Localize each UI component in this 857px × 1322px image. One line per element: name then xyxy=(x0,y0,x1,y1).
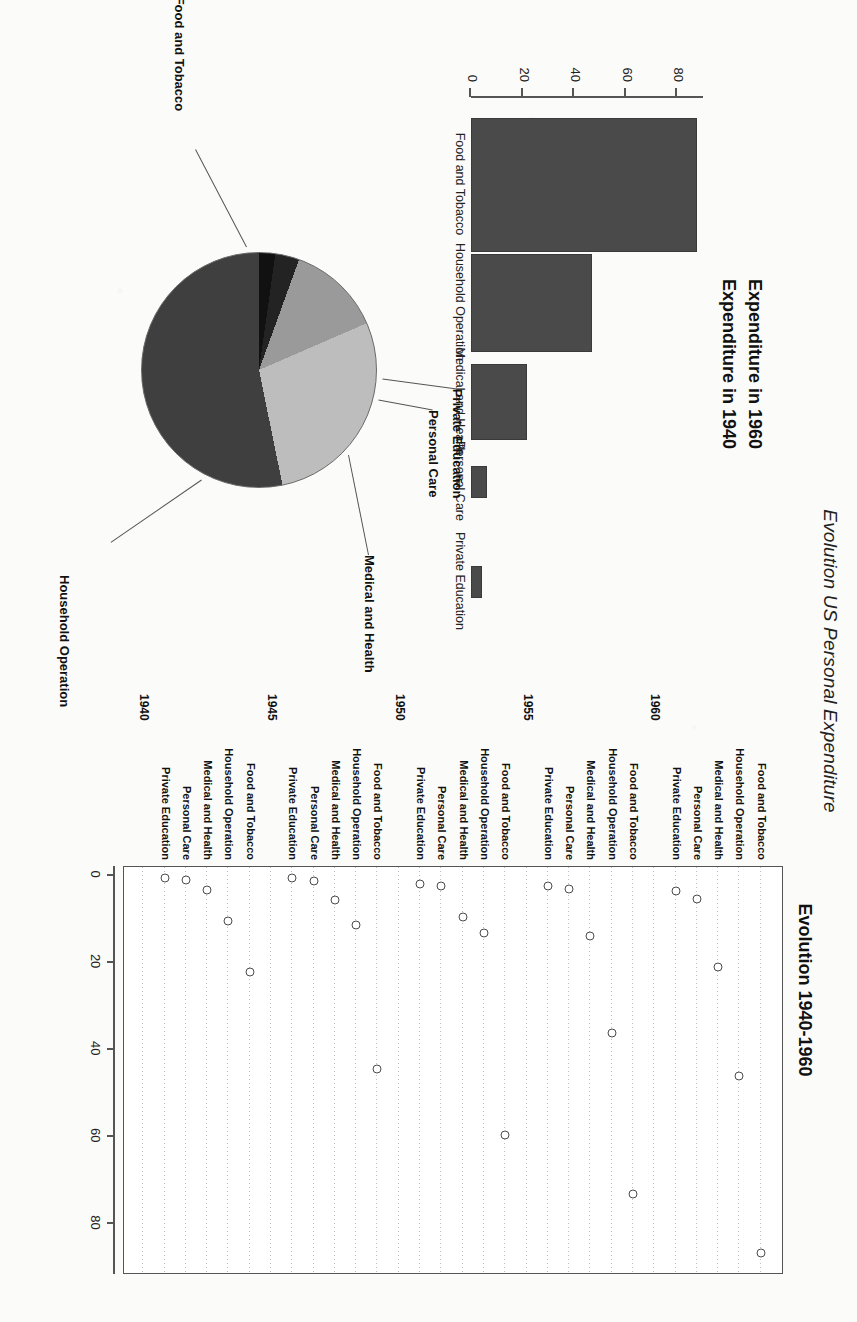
dotplot-gridline xyxy=(632,867,633,1273)
dotplot-gridline xyxy=(589,867,590,1273)
barplot-panel: Expenditure in 1960 Expenditure in 1940 … xyxy=(435,44,765,684)
dotplot-category-label: Personal Care xyxy=(564,786,576,860)
dotplot-point xyxy=(756,1249,765,1258)
barplot-tick xyxy=(572,88,574,97)
dotplot-point xyxy=(543,881,552,890)
dotplot-plot-area xyxy=(123,866,783,1274)
barplot-tick-label: 0 xyxy=(465,40,480,82)
pie-label-food-and-tobacco: Food and Tobacco xyxy=(172,0,187,111)
dotplot-point xyxy=(203,886,212,895)
bar-household-operation xyxy=(471,254,592,352)
dotplot-point xyxy=(245,967,254,976)
pie-chart xyxy=(141,252,377,488)
barplot-plot-area: Food and TobaccoHousehold OperationMedic… xyxy=(471,114,703,670)
dotplot-gridline xyxy=(760,867,761,1273)
dotplot-x-tick xyxy=(107,1222,115,1224)
dotplot-gridline xyxy=(185,867,186,1273)
dotplot-point xyxy=(309,877,318,886)
dotplot-point xyxy=(714,962,723,971)
dotplot-point xyxy=(565,884,574,893)
dotplot-category-label: Personal Care xyxy=(309,786,321,860)
dotplot-gridline xyxy=(504,867,505,1273)
dotplot-category-label: Private Education xyxy=(160,767,172,860)
barplot-tick xyxy=(521,88,523,97)
dotplot-x-tick xyxy=(107,1135,115,1137)
dotplot-gridline xyxy=(206,867,207,1273)
dotplot-gridline xyxy=(164,867,165,1273)
dotplot-category-label: Food and Tobacco xyxy=(756,763,768,860)
dotplot-gridline xyxy=(313,867,314,1273)
dotplot-point xyxy=(437,882,446,891)
dotplot-category-label: Personal Care xyxy=(436,786,448,860)
dotplot-category-label: Food and Tobacco xyxy=(245,763,257,860)
pie-leader-line xyxy=(195,149,247,247)
dotplot-x-tick-label: 0 xyxy=(88,870,103,877)
dotplot-x-tick-label: 20 xyxy=(88,954,103,968)
dotplot-point xyxy=(330,896,339,905)
dotplot-group-label-1945: 1945 xyxy=(265,694,279,721)
dotplot-category-label: Food and Tobacco xyxy=(628,763,640,860)
barplot-tick xyxy=(469,88,471,97)
dotplot-category-label: Personal Care xyxy=(692,786,704,860)
dotplot-panel: Evolution 1940-1960 1940Private Educatio… xyxy=(27,690,817,1290)
dotplot-point xyxy=(373,1064,382,1073)
dotplot-point xyxy=(458,913,467,922)
dotplot-gridline xyxy=(738,867,739,1273)
dotplot-point xyxy=(352,921,361,930)
barplot-tick-label: 40 xyxy=(568,40,583,82)
dotplot-point xyxy=(160,873,169,882)
barplot-tick-label: 80 xyxy=(671,40,686,82)
barplot-title-1960: Expenditure in 1960 xyxy=(744,44,765,684)
dotplot-gridline xyxy=(270,867,271,1273)
dotplot-x-tick-label: 60 xyxy=(88,1128,103,1142)
dotplot-title: Evolution 1940-1960 xyxy=(794,690,815,1290)
dotplot-gridline xyxy=(526,867,527,1273)
dotplot-category-label: Private Education xyxy=(415,767,427,860)
pie-label-personal-care: Personal Care xyxy=(426,410,441,497)
dotplot-gridline xyxy=(334,867,335,1273)
dotplot-gridline xyxy=(717,867,718,1273)
dotplot-category-label: Medical and Health xyxy=(202,760,214,860)
dotplot-point xyxy=(692,894,701,903)
dotplot-category-label: Private Education xyxy=(543,767,555,860)
dotplot-category-label: Food and Tobacco xyxy=(500,763,512,860)
pie-leader-line xyxy=(379,399,433,410)
bar-food-and-tobacco xyxy=(471,118,697,252)
barplot-tick xyxy=(624,88,626,97)
dotplot-point xyxy=(628,1189,637,1198)
dotplot-gridline xyxy=(291,867,292,1273)
dotplot-gridline xyxy=(142,867,143,1273)
dotplot-gridline xyxy=(547,867,548,1273)
dotplot-category-label: Private Education xyxy=(671,767,683,860)
rotated-figure-canvas: Evolution US Personal Expenditure Expend… xyxy=(0,0,857,1322)
dotplot-gridline xyxy=(696,867,697,1273)
bar-medical-and-health xyxy=(471,364,527,440)
dotplot-point xyxy=(735,1072,744,1081)
dotplot-point xyxy=(416,879,425,888)
dotplot-point xyxy=(586,931,595,940)
dotplot-gridline xyxy=(675,867,676,1273)
barplot-title-1940: Expenditure in 1940 xyxy=(718,44,739,684)
page-title: Evolution US Personal Expenditure xyxy=(819,0,841,1322)
dotplot-gridline xyxy=(653,867,654,1273)
dotplot-gridline xyxy=(611,867,612,1273)
dotplot-point xyxy=(479,929,488,938)
dotplot-point xyxy=(501,1130,510,1139)
pie-label-household-operation: Household Operation xyxy=(57,575,72,707)
dotplot-point xyxy=(288,873,297,882)
dotplot-gridline xyxy=(419,867,420,1273)
dotplot-x-tick-label: 80 xyxy=(88,1215,103,1229)
dotplot-category-label: Personal Care xyxy=(181,786,193,860)
dotplot-point xyxy=(181,876,190,885)
dotplot-group-label-1950: 1950 xyxy=(393,694,407,721)
dotplot-category-label: Medical and Health xyxy=(458,760,470,860)
dotplot-category-label: Food and Tobacco xyxy=(372,763,384,860)
dotplot-gridline xyxy=(568,867,569,1273)
dotplot-category-label: Household Operation xyxy=(479,748,491,860)
dotplot-x-tick xyxy=(107,961,115,963)
dotplot-x-axis xyxy=(114,866,116,1274)
pie-panel: Food and TobaccoHousehold OperationMedic… xyxy=(25,92,405,652)
barplot-tick-label: 20 xyxy=(517,40,532,82)
dotplot-category-label: Household Operation xyxy=(223,748,235,860)
dotplot-category-label: Household Operation xyxy=(351,748,363,860)
